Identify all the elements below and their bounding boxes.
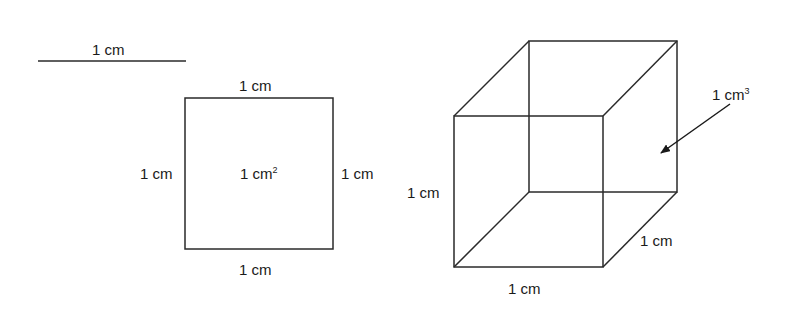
cube-width-label: 1 cm: [508, 281, 541, 296]
area-exponent: 2: [273, 165, 278, 175]
units-diagram: 1 cm 1 cm 1 cm 1 cm 1 cm 1 cm2 1 cm 1 cm…: [0, 0, 791, 312]
cube-height-label: 1 cm: [407, 185, 440, 200]
cube-depth-label: 1 cm: [640, 233, 673, 248]
cube-volume-label: 1 cm3: [712, 87, 750, 102]
square-left-label: 1 cm: [140, 166, 173, 181]
square-right-label: 1 cm: [341, 166, 374, 181]
volume-arrow: [661, 104, 730, 153]
line-length-label: 1 cm: [92, 42, 125, 57]
volume-unit: 1 cm: [712, 86, 745, 103]
area-unit: 1 cm: [240, 165, 273, 182]
volume-exponent: 3: [745, 86, 750, 96]
square-top-label: 1 cm: [239, 78, 272, 93]
square-area-label: 1 cm2: [240, 166, 278, 181]
square-bottom-label: 1 cm: [239, 262, 272, 277]
